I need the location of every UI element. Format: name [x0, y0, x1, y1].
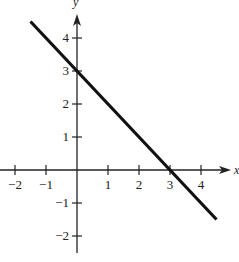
y-tick-label: 4	[63, 30, 70, 45]
data-line	[31, 22, 217, 220]
tick-labels: −2−112344321−1−2	[8, 30, 205, 243]
x-tick-label: 1	[105, 177, 112, 192]
x-tick-label: −1	[39, 177, 53, 192]
y-tick-label: −2	[55, 228, 69, 243]
y-tick-label: 2	[63, 96, 70, 111]
axes: xy	[0, 0, 239, 253]
ticks	[15, 38, 201, 236]
data-series	[31, 22, 217, 220]
y-tick-label: 3	[63, 63, 70, 78]
x-tick-label: 2	[136, 177, 143, 192]
line-graph: xy −2−112344321−1−2	[0, 0, 239, 262]
y-tick-label: 1	[63, 129, 70, 144]
y-tick-label: −1	[55, 195, 69, 210]
y-axis-label: y	[72, 0, 79, 9]
x-tick-label: 3	[167, 177, 174, 192]
x-tick-label: 4	[198, 177, 205, 192]
x-tick-label: −2	[8, 177, 22, 192]
x-axis-label: x	[233, 163, 239, 177]
